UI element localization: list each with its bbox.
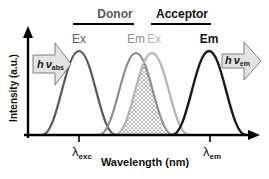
y-axis-arrowhead-icon [23,26,33,38]
acceptor-ex-label: Ex [147,32,161,46]
acceptor-em-label: Em [200,32,219,46]
h-symbol: h [225,54,232,66]
donor-group-label: Donor [97,7,133,21]
y-axis-label: Intensity (a.u.) [8,54,19,122]
donor-em-label: Em [127,32,145,46]
em-subscript: em [240,60,250,67]
acceptor-group-label: Acceptor [156,7,208,21]
x-axis-arrowhead-icon [248,130,260,140]
h-symbol: h [37,58,44,70]
y-axis [23,26,33,138]
x-tick-label-exc: λexc [72,144,92,161]
x-tick-label-em: λem [203,144,221,161]
fret-spectra-diagram: Donor Acceptor Ex Em Ex Em hνabs hνem In… [0,0,269,179]
emission-arrow: hνem [222,42,261,80]
donor-ex-label: Ex [72,32,86,46]
x-axis-label: Wavelength (nm) [101,156,190,168]
abs-subscript: abs [52,64,64,71]
